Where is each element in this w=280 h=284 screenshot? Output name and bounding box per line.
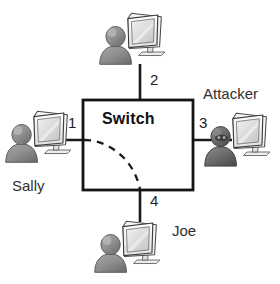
host-label-attacker: Attacker bbox=[203, 86, 258, 101]
host-icon-sally[interactable] bbox=[6, 111, 71, 162]
host-label-sally: Sally bbox=[12, 178, 45, 193]
port-number-4: 4 bbox=[150, 193, 158, 208]
host-label-joe: Joe bbox=[172, 223, 196, 238]
host-icon-joe[interactable] bbox=[95, 221, 160, 272]
network-topology-svg bbox=[0, 0, 280, 284]
port-number-2: 2 bbox=[150, 72, 158, 87]
port-number-3: 3 bbox=[199, 115, 207, 130]
diagram-canvas: Switch 1 2 3 4 Sally Attacker Joe bbox=[0, 0, 280, 284]
host-icon-top[interactable] bbox=[100, 13, 165, 64]
switch-label: Switch bbox=[102, 110, 155, 128]
port-number-1: 1 bbox=[68, 115, 76, 130]
host-icon-attacker[interactable] bbox=[205, 113, 270, 166]
